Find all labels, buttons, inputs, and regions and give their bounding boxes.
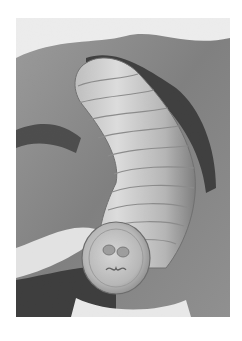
larva-illustration [16, 18, 230, 317]
micrograph-image [16, 18, 230, 317]
